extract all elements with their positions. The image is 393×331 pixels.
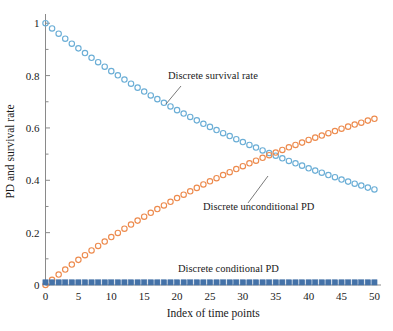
data-point [102, 64, 107, 69]
data-point [372, 116, 377, 121]
data-point [339, 126, 344, 131]
data-point [313, 135, 318, 140]
data-point [326, 130, 331, 135]
data-point [161, 100, 166, 105]
data-point [161, 203, 166, 208]
data-point [142, 280, 147, 285]
data-point [260, 148, 265, 153]
data-point [115, 230, 120, 235]
data-point [220, 130, 225, 135]
data-point [227, 169, 232, 174]
data-point [194, 185, 199, 190]
data-point [49, 280, 54, 285]
data-point [115, 73, 120, 78]
x-axis-title: Index of time points [167, 307, 260, 320]
data-point [122, 280, 127, 285]
data-point [220, 172, 225, 177]
x-tick-label: 5 [76, 290, 82, 302]
x-tick-label: 30 [237, 290, 249, 302]
data-point [299, 280, 304, 285]
data-point [128, 222, 133, 227]
data-point [122, 226, 127, 231]
data-point [155, 280, 160, 285]
data-point [253, 280, 258, 285]
data-point [115, 280, 120, 285]
data-point [359, 183, 364, 188]
data-point [168, 199, 173, 204]
x-tick-label: 20 [172, 290, 184, 302]
data-point [260, 155, 265, 160]
data-point [306, 166, 311, 171]
data-point [365, 118, 370, 123]
data-point [234, 280, 239, 285]
data-point [345, 124, 350, 129]
data-point [372, 187, 377, 192]
data-point [267, 280, 272, 285]
data-point [168, 104, 173, 109]
data-point [56, 31, 61, 36]
data-point [181, 111, 186, 116]
data-point [280, 156, 285, 161]
data-point [359, 280, 364, 285]
series-annotation-label: Discrete survival rate [168, 70, 258, 81]
data-point [365, 280, 370, 285]
data-point [326, 280, 331, 285]
data-point [214, 280, 219, 285]
data-point [319, 133, 324, 138]
data-point [214, 127, 219, 132]
data-point [95, 243, 100, 248]
data-point [69, 41, 74, 46]
data-point [306, 137, 311, 142]
data-point [299, 140, 304, 145]
data-point [332, 128, 337, 133]
x-tick-label: 25 [204, 290, 216, 302]
data-point [201, 121, 206, 126]
data-point [293, 161, 298, 166]
data-point [313, 168, 318, 173]
data-point [128, 81, 133, 86]
leader-line-survival-rate [166, 86, 181, 104]
data-point [63, 36, 68, 41]
data-point [319, 280, 324, 285]
data-point [339, 280, 344, 285]
data-point [76, 257, 81, 262]
data-point [63, 267, 68, 272]
data-point [221, 280, 226, 285]
x-tick-label: 50 [369, 290, 381, 302]
data-point [122, 77, 127, 82]
data-point [63, 280, 68, 285]
chart-figure: 00.20.40.60.8105101520253035404550 Discr… [0, 0, 393, 331]
data-point [168, 280, 173, 285]
annotations: Discrete survival rateDiscrete unconditi… [166, 70, 315, 274]
data-point [76, 46, 81, 51]
data-point [188, 280, 193, 285]
data-point [188, 189, 193, 194]
leader-line-unconditional-pd [248, 176, 268, 203]
series-discrete-survival-rate [43, 21, 377, 193]
data-point [293, 142, 298, 147]
data-point [174, 107, 179, 112]
scatter-plot: 00.20.40.60.8105101520253035404550 Discr… [0, 0, 393, 331]
data-point [135, 280, 140, 285]
data-point [372, 280, 377, 285]
data-point [109, 234, 114, 239]
data-point [332, 174, 337, 179]
data-point [49, 26, 54, 31]
y-tick-label: 0 [34, 279, 40, 291]
y-tick-label: 0.8 [26, 70, 40, 82]
data-point [214, 176, 219, 181]
series-annotation-label: Discrete unconditional PD [203, 201, 315, 212]
data-point [188, 114, 193, 119]
y-tick-label: 1 [34, 17, 40, 29]
data-point [82, 50, 87, 55]
axes: 00.20.40.60.8105101520253035404550 [26, 14, 381, 302]
data-point [286, 280, 291, 285]
y-tick-label: 0.6 [26, 122, 40, 134]
data-point [148, 93, 153, 98]
data-point [194, 280, 199, 285]
data-point [174, 280, 179, 285]
data-point [89, 248, 94, 253]
data-point [89, 55, 94, 60]
data-point [240, 163, 245, 168]
data-point [352, 181, 357, 186]
